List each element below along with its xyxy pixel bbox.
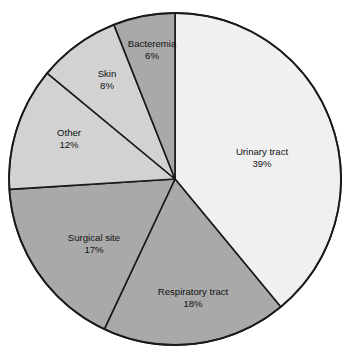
slice-value-surgical-site: 17% (84, 244, 104, 255)
slice-label-other: Other (57, 127, 82, 138)
slice-label-respiratory-tract: Respiratory tract (158, 286, 229, 297)
slice-label-skin: Skin (98, 68, 117, 79)
slice-value-skin: 8% (100, 80, 114, 91)
slice-label-urinary-tract: Urinary tract (236, 146, 289, 157)
slice-label-surgical-site: Surgical site (68, 232, 120, 243)
pie-chart: Urinary tract39%Respiratory tract18%Surg… (0, 0, 349, 356)
slice-value-other: 12% (59, 139, 79, 150)
slice-label-bacteremia: Bacteremia (128, 38, 177, 49)
pie-chart-canvas: Urinary tract39%Respiratory tract18%Surg… (0, 0, 349, 356)
slice-value-respiratory-tract: 18% (183, 298, 203, 309)
slice-value-bacteremia: 6% (145, 50, 159, 61)
slice-value-urinary-tract: 39% (252, 158, 272, 169)
